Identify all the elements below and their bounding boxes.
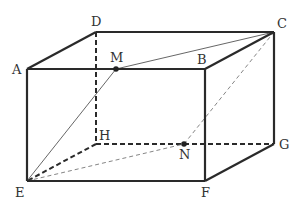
label-A: A <box>11 62 22 77</box>
label-N: N <box>179 147 190 162</box>
label-G: G <box>279 137 289 152</box>
label-D: D <box>91 14 101 29</box>
point-M <box>113 66 119 72</box>
segment-NC <box>184 32 274 144</box>
segment-EN <box>27 144 184 181</box>
point-N <box>181 141 187 147</box>
label-M: M <box>110 50 123 65</box>
label-C: C <box>277 16 287 31</box>
segment-EM <box>27 69 116 181</box>
label-B: B <box>197 52 207 67</box>
edge-DA <box>27 32 96 69</box>
edge-FG <box>205 144 274 181</box>
edge-BC <box>205 32 274 69</box>
segment-MC <box>116 32 274 69</box>
label-H: H <box>99 128 110 143</box>
label-E: E <box>15 185 25 200</box>
edge-HE <box>27 144 96 181</box>
prism-diagram: A B C D E F G H M N <box>0 0 302 208</box>
label-F: F <box>201 185 210 200</box>
